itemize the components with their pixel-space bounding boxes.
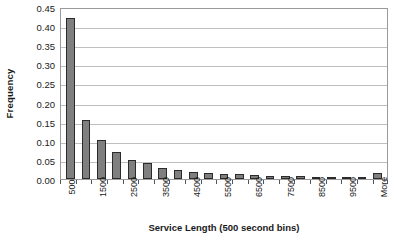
bar-slot: [63, 9, 78, 179]
bar-slot: [293, 9, 308, 179]
bar: [112, 152, 121, 179]
bar-slot: [140, 9, 155, 179]
bar: [82, 120, 91, 179]
x-axis-tick-label-slot: [263, 185, 279, 219]
y-axis-tick-label: 0.00: [37, 175, 56, 186]
bar: [266, 176, 275, 179]
y-axis-tick-label: 0.40: [37, 22, 56, 33]
x-axis-tick-label-slot: 1500: [91, 185, 107, 219]
y-axis-tick-label: 0.35: [37, 41, 56, 52]
bar-slot: [94, 9, 109, 179]
x-axis-tick-label-slot: [357, 185, 373, 219]
y-axis-tick-label: 0.05: [37, 155, 56, 166]
y-axis-tick-label: 0.15: [37, 117, 56, 128]
x-axis-tick-label: More: [380, 177, 389, 198]
y-axis-tick-labels: 0.450.400.350.300.250.200.150.100.050.00: [20, 8, 58, 180]
x-axis-tick-label-slot: [232, 185, 248, 219]
x-axis-tick-label-slot: 500: [60, 185, 76, 219]
y-axis-tick-label: 0.30: [37, 60, 56, 71]
x-axis-tick-label-slot: [326, 185, 342, 219]
y-axis-title-label: Frequency: [5, 68, 16, 118]
x-axis-tick-label-slot: [201, 185, 217, 219]
bar-slot: [324, 9, 339, 179]
bar-slot: [170, 9, 185, 179]
x-axis-tick-label-slot: [107, 185, 123, 219]
bar: [143, 163, 152, 179]
x-axis-tick-label-slot: [138, 185, 154, 219]
bar: [66, 18, 75, 179]
x-axis-tick-label-slot: More: [373, 185, 389, 219]
x-axis-tick-label-slot: 3500: [154, 185, 170, 219]
bar-slot: [109, 9, 124, 179]
bar: [97, 140, 106, 179]
bar-slot: [354, 9, 369, 179]
bar: [296, 176, 305, 179]
bar-slot: [216, 9, 231, 179]
bar-slot: [370, 9, 385, 179]
bar-slot: [278, 9, 293, 179]
y-axis-tick-label: 0.20: [37, 98, 56, 109]
y-axis-tick-label: 0.45: [37, 3, 56, 14]
bar-series: [61, 9, 387, 179]
x-axis-tick-label-slot: 7500: [279, 185, 295, 219]
bar-slot: [186, 9, 201, 179]
x-axis-tick-label-slot: 9500: [341, 185, 357, 219]
y-axis-tick-label: 0.10: [37, 136, 56, 147]
y-axis-title: Frequency: [0, 0, 20, 186]
x-axis-tick-label-slot: [76, 185, 92, 219]
bar-slot: [124, 9, 139, 179]
bar-slot: [155, 9, 170, 179]
x-axis-tick-labels: 500150025003500450055006500750085009500M…: [60, 185, 388, 219]
x-axis-tick-label-slot: 8500: [310, 185, 326, 219]
x-axis-tick-label-slot: [169, 185, 185, 219]
bar-slot: [262, 9, 277, 179]
bar-slot: [339, 9, 354, 179]
bar: [235, 174, 244, 179]
x-axis-tick-label-slot: [294, 185, 310, 219]
bar: [204, 173, 213, 179]
frequency-histogram-chart: Frequency 0.450.400.350.300.250.200.150.…: [0, 0, 397, 246]
x-axis-tick-label-slot: 5500: [216, 185, 232, 219]
bar: [174, 170, 183, 179]
x-axis-tick-label-slot: 6500: [248, 185, 264, 219]
y-axis-tick-label: 0.25: [37, 79, 56, 90]
bar-slot: [201, 9, 216, 179]
bar-slot: [232, 9, 247, 179]
plot-area: [60, 8, 388, 180]
x-axis-tick-label-slot: 2500: [123, 185, 139, 219]
bar-slot: [308, 9, 323, 179]
x-axis-title: Service Length (500 second bins): [60, 222, 388, 233]
x-axis-tick-label-slot: 4500: [185, 185, 201, 219]
bar: [327, 177, 336, 179]
bar-slot: [78, 9, 93, 179]
bar-slot: [247, 9, 262, 179]
bar: [358, 177, 367, 179]
